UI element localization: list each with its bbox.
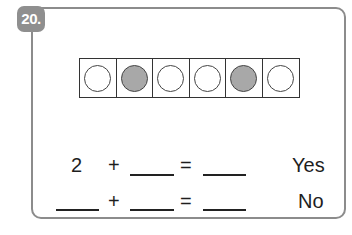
plus-sign: + xyxy=(108,150,120,180)
counter-filled xyxy=(121,65,148,92)
counter-empty xyxy=(84,65,111,92)
blank-addend-2[interactable] xyxy=(130,209,174,211)
blank-sum[interactable] xyxy=(203,209,246,211)
frame-cell xyxy=(226,59,263,97)
answer-label-yes: Yes xyxy=(292,150,325,180)
blank-addend-2[interactable] xyxy=(130,174,174,176)
blank-addend-1[interactable] xyxy=(56,209,99,211)
frame-cell xyxy=(117,59,154,97)
frame-cell xyxy=(263,59,300,97)
equals-sign: = xyxy=(180,186,192,216)
addend-1: 2 xyxy=(71,150,82,180)
plus-sign: + xyxy=(108,186,120,216)
question-number-badge: 20. xyxy=(17,6,45,32)
frame-cell xyxy=(190,59,227,97)
ten-frame xyxy=(79,58,300,98)
counter-empty xyxy=(194,65,221,92)
blank-sum[interactable] xyxy=(203,174,246,176)
equation-row-2: + = No xyxy=(0,186,352,216)
frame-cell xyxy=(80,59,117,97)
counter-filled xyxy=(230,65,257,92)
frame-cell xyxy=(153,59,190,97)
equals-sign: = xyxy=(180,150,192,180)
equation-row-1: 2 + = Yes xyxy=(0,150,352,180)
counter-empty xyxy=(267,65,294,92)
answer-label-no: No xyxy=(298,186,324,216)
counter-empty xyxy=(157,65,184,92)
